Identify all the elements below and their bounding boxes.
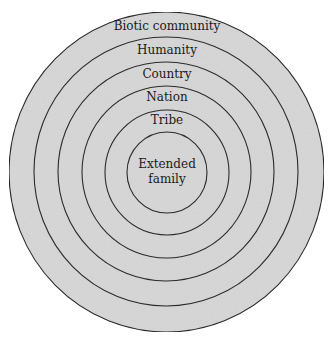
concentric-circles-diagram: Biotic community Humanity Country Nation… xyxy=(0,0,334,344)
label-tribe: Tribe xyxy=(151,113,183,127)
label-nation: Nation xyxy=(146,90,188,104)
label-humanity: Humanity xyxy=(137,43,197,57)
label-family: family xyxy=(148,172,186,186)
label-country: Country xyxy=(142,67,191,81)
label-extended: Extended xyxy=(138,157,196,171)
label-biotic-community: Biotic community xyxy=(114,19,221,33)
